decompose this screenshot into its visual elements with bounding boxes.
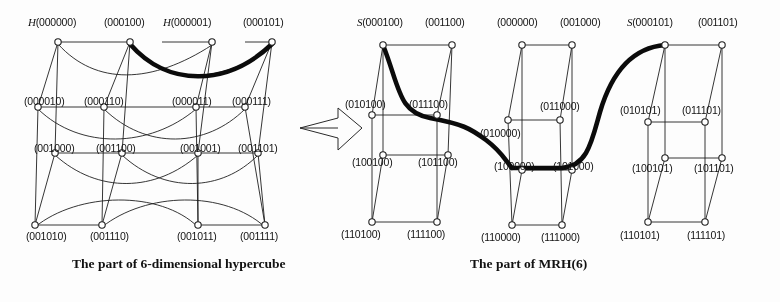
node-label-111101: (111101) [687, 229, 725, 241]
node-label-100000: (100000) [494, 160, 534, 172]
figure-canvas: H(000000) (000100) H(000001) (000101) (0… [0, 0, 780, 302]
node-label-001101: (001101) [238, 142, 278, 154]
node-prefix-H: H [163, 16, 171, 28]
node-label-001100: (001100) [96, 142, 136, 154]
node-label-000110: (000110) [84, 95, 124, 107]
node-label-110101: (110101) [620, 229, 660, 241]
node-label-100100: (100100) [352, 156, 392, 168]
node-label-000100: (000100) [104, 16, 144, 28]
node-label-000010: (000010) [24, 95, 64, 107]
node-label-000111: (000111) [232, 95, 271, 107]
node-label-000001: H(000001) [163, 16, 211, 28]
caption-left: The part of 6-dimensional hypercube [72, 256, 286, 272]
node-label-000000: (000000) [497, 16, 537, 28]
node-label-001101: (001101) [698, 16, 738, 28]
highlight-path-left [130, 44, 272, 76]
node-label-111000: (111000) [541, 231, 580, 243]
node-label-001111: (001111) [240, 230, 278, 242]
caption-right: The part of MRH(6) [470, 256, 587, 272]
node-label-100101: (100101) [632, 162, 672, 174]
node-label-101000: (101000) [553, 160, 593, 172]
right-graph-nodes [369, 42, 725, 228]
node-label-010100: (010100) [345, 98, 385, 110]
node-label-111100: (111100) [407, 228, 445, 240]
node-label-S000100: S(000100) [357, 16, 403, 28]
node-label-011100: (011100) [409, 98, 448, 110]
node-label-001110: (001110) [90, 230, 129, 242]
node-label-011101: (011101) [682, 104, 721, 116]
node-label-101100: (101100) [418, 156, 458, 168]
node-label-010000: (010000) [480, 127, 520, 139]
node-label-011000: (011000) [540, 100, 580, 112]
node-label-110000: (110000) [481, 231, 521, 243]
node-label-101101: (101101) [694, 162, 734, 174]
node-label-001011: (001011) [177, 230, 217, 242]
node-label-000000: H(000000) [28, 16, 76, 28]
node-label-001000: (001000) [560, 16, 600, 28]
node-label-001000: (001000) [34, 142, 74, 154]
node-label-001001: (001001) [180, 142, 220, 154]
right-arrow-icon [300, 108, 362, 150]
node-label-001010: (001010) [26, 230, 66, 242]
node-label-000101: (000101) [243, 16, 283, 28]
node-label-110100: (110100) [341, 228, 381, 240]
node-prefix-H: H [28, 16, 36, 28]
node-label-001100: (001100) [425, 16, 465, 28]
node-label-S000101: S(000101) [627, 16, 673, 28]
node-label-000011: (000011) [172, 95, 212, 107]
node-label-010101: (010101) [620, 104, 660, 116]
